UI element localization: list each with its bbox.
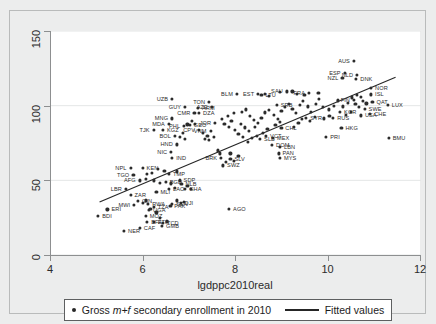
- scatter-point-label: TMP: [173, 171, 185, 177]
- x-tick-mark: [50, 255, 51, 261]
- scatter-point-label: LBR: [111, 186, 122, 192]
- legend-entry-fitted: Fitted values: [285, 304, 385, 316]
- y-tick-label: 50: [30, 179, 42, 191]
- scatter-point-label: FRA: [294, 90, 306, 96]
- scatter-point-label: KGZ: [167, 127, 179, 133]
- y-tick-label: 100: [30, 105, 42, 123]
- scatter-point-label: SYR: [310, 115, 322, 121]
- scatter-point-label: MNG: [155, 115, 168, 121]
- scatter-point-label: VNM: [194, 128, 207, 134]
- scatter-point-label: SAU: [271, 88, 283, 94]
- scatter-point-label: MDA: [152, 121, 165, 127]
- scatter-point-label: RUS: [337, 115, 349, 121]
- scatter-point-label: TGO: [117, 172, 129, 178]
- scatter-point-label: AUS: [338, 58, 350, 64]
- scatter-point-label: UZB: [157, 96, 169, 102]
- scatter-point-label: TON: [193, 99, 205, 105]
- chart-legend: Gross m+f secondary enrollment in 2010 F…: [64, 299, 392, 321]
- plot-area: BDIERILBRNERCAFAFGTGONPLKENZARGINMWIMOZB…: [50, 31, 420, 255]
- legend-label-post: secondary enrollment in 2010: [130, 304, 271, 316]
- x-tick-label: 4: [47, 263, 53, 275]
- chart-outer-frame: 050100150 BDIERILBRNERCAFAFGTGONPLKENZAR…: [9, 10, 426, 314]
- x-tick-mark: [235, 255, 236, 261]
- scatter-point-label: UGA: [153, 207, 165, 213]
- x-tick-mark: [143, 255, 144, 261]
- y-tick-label: 0: [30, 254, 42, 260]
- scatter-point-label: GMB: [166, 223, 179, 229]
- scatter-point-label: BMU: [393, 135, 406, 141]
- scatter-point-label: LUX: [392, 102, 403, 108]
- x-tick-mark: [420, 255, 421, 261]
- scatter-point-label: HKG: [345, 125, 357, 131]
- x-tick-label: 10: [321, 263, 333, 275]
- legend-label-fitted: Fitted values: [325, 304, 385, 316]
- scatter-point-label: DJI: [185, 200, 194, 206]
- legend-label-scatter: Gross m+f secondary enrollment in 2010: [82, 304, 271, 316]
- scatter-point-label: MWI: [118, 202, 130, 208]
- y-tick-label: 150: [30, 30, 42, 48]
- scatter-point-label: CMR: [177, 110, 190, 116]
- y-axis: 050100150: [10, 11, 50, 255]
- scatter-point-label: BLM: [221, 91, 233, 97]
- scatter-point-label: GHA: [189, 186, 201, 192]
- x-tick-label: 6: [139, 263, 145, 275]
- legend-label-pre: Gross: [82, 304, 113, 316]
- scatter-point-label: NZL: [328, 75, 339, 81]
- scatter-point-label: FIN: [341, 97, 350, 103]
- scatter-point-label: LBN: [284, 144, 295, 150]
- plot-svg: [51, 31, 421, 255]
- x-tick-mark: [328, 255, 329, 261]
- legend-line-sample: [285, 309, 319, 311]
- scatter-point-label: NIC: [157, 149, 167, 155]
- x-tick-label: 8: [232, 263, 238, 275]
- scatter-point-label: RWA: [152, 201, 165, 207]
- scatter-point-label: MYS: [284, 155, 296, 161]
- figure-canvas: 050100150 BDIERILBRNERCAFAFGTGONPLKENZAR…: [0, 0, 436, 324]
- legend-entry-scatter: Gross m+f secondary enrollment in 2010: [72, 304, 271, 316]
- scatter-point-label: NPL: [115, 165, 126, 171]
- scatter-point-label: SWZ: [227, 162, 240, 168]
- scatter-point-label: KEN: [147, 165, 159, 171]
- scatter-point-label: BOL: [159, 133, 171, 139]
- scatter-point-label: AZE: [197, 104, 208, 110]
- scatter-point-label: AFG: [124, 177, 136, 183]
- scatter-point-label: CAF: [144, 225, 156, 231]
- scatter-point-label: IND: [176, 155, 186, 161]
- x-tick-label: 12: [414, 263, 426, 275]
- scatter-point-label: JOR: [200, 120, 212, 126]
- legend-label-emphasis: m+f: [113, 304, 131, 316]
- legend-marker-dot: [72, 308, 76, 312]
- scatter-point-label: ESP: [329, 70, 341, 76]
- scatter-point-label: HND: [160, 141, 172, 147]
- scatter-point-label: CHL: [285, 125, 297, 131]
- scatter-point-label: BRK: [205, 155, 217, 161]
- scatter-point-label: MEX: [277, 135, 289, 141]
- x-axis-title: lgdppc2010real: [50, 279, 420, 291]
- scatter-point-label: AGO: [233, 206, 246, 212]
- scatter-point-label: SLV: [234, 156, 244, 162]
- scatter-point-label: NLD: [342, 72, 354, 78]
- scatter-point-label: TJK: [139, 127, 149, 133]
- scatter-point-label: EST: [243, 91, 254, 97]
- scatter-point-label: USA: [365, 112, 377, 118]
- scatter-point-label: DNK: [360, 76, 372, 82]
- scatter-point-label: DZA: [203, 110, 215, 116]
- scatter-point-label: BDI: [102, 213, 112, 219]
- scatter-point-label: ISL: [375, 91, 384, 97]
- scatter-point-label: NOR: [375, 85, 388, 91]
- scatter-point-label: PRI: [330, 134, 340, 140]
- scatter-point-label: SRB: [281, 102, 293, 108]
